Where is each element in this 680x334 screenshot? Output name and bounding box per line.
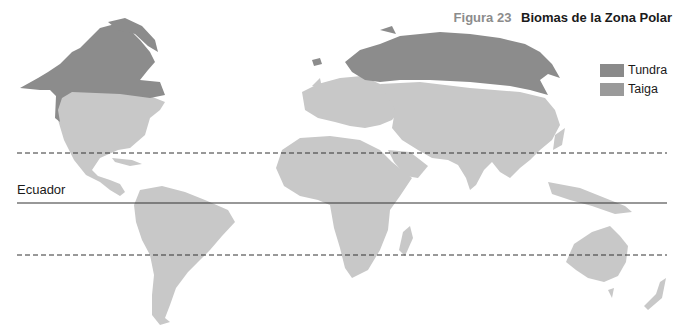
africa <box>276 136 412 278</box>
legend-item-tundra: Tundra <box>600 61 667 79</box>
tundra-swatch-icon <box>600 64 624 77</box>
world-map <box>0 0 680 334</box>
legend-label: Tundra <box>628 63 667 77</box>
legend-label: Taiga <box>628 82 658 96</box>
land-masses <box>58 76 666 325</box>
north-america <box>58 90 165 196</box>
map-legend: Tundra Taiga <box>600 61 667 99</box>
legend-item-taiga: Taiga <box>600 80 667 98</box>
iceland <box>312 58 322 66</box>
equator-label: Ecuador <box>17 182 65 197</box>
taiga-swatch-icon <box>600 83 624 96</box>
australia <box>566 226 628 282</box>
